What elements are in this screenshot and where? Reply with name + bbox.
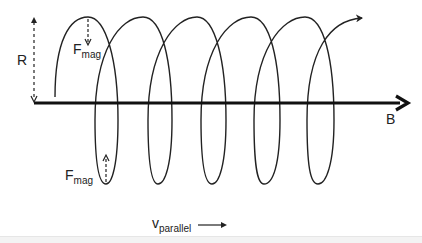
bottom-strip xyxy=(0,236,422,243)
velocity-arrowhead-icon xyxy=(221,222,227,228)
radius-label-text: R xyxy=(17,52,27,68)
force-bottom-sub: mag xyxy=(74,175,93,186)
force-top-main: F xyxy=(73,41,82,57)
force-top-sub: mag xyxy=(82,49,101,60)
velocity-sub: parallel xyxy=(159,223,191,234)
radius-arrowhead-top-icon xyxy=(31,17,37,23)
velocity-main: v xyxy=(152,215,159,231)
force-bottom-main: F xyxy=(65,167,74,183)
force-label-top: Fmag xyxy=(73,42,101,56)
force-label-bottom: Fmag xyxy=(65,168,93,182)
radius-label: R xyxy=(17,53,27,67)
field-label-text: B xyxy=(386,111,395,127)
field-label: B xyxy=(386,112,395,126)
helix-trajectory xyxy=(55,17,362,184)
velocity-label: vparallel xyxy=(152,216,191,230)
